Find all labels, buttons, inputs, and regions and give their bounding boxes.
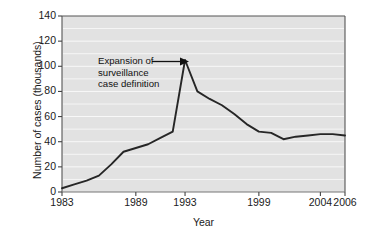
x-tick-label: 1983 bbox=[40, 196, 84, 208]
x-tick-label: 1993 bbox=[163, 196, 207, 208]
y-tick-label: 140 bbox=[20, 9, 56, 21]
y-tick-label: 60 bbox=[20, 110, 56, 122]
y-tick-label: 100 bbox=[20, 59, 56, 71]
y-tick-label: 20 bbox=[20, 160, 56, 172]
x-tick-label: 1999 bbox=[237, 196, 281, 208]
chart-figure: Number of cases (thousands) Year 0204060… bbox=[0, 0, 372, 238]
y-tick-label: 120 bbox=[20, 34, 56, 46]
y-tick-label: 40 bbox=[20, 135, 56, 147]
expansion-annotation-text: Expansion of surveillance case definitio… bbox=[98, 55, 159, 90]
x-axis-label: Year bbox=[62, 216, 345, 228]
y-axis-ticks bbox=[58, 16, 62, 192]
y-tick-label: 80 bbox=[20, 84, 56, 96]
x-tick-label: 1989 bbox=[114, 196, 158, 208]
x-tick-label: 2006 bbox=[323, 196, 367, 208]
